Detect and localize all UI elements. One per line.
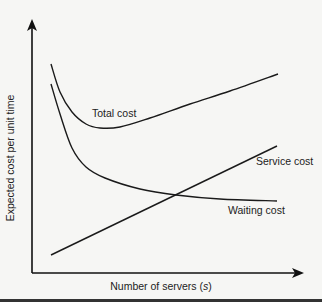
total-cost-label: Total cost (92, 107, 136, 119)
x-axis-label-prefix: Number of servers ( (110, 280, 203, 292)
y-axis-label: Expected cost per unit time (4, 95, 16, 222)
waiting-cost-curve (51, 84, 277, 201)
x-axis-label: Number of servers (s) (0, 280, 322, 292)
waiting-cost-label: Waiting cost (228, 204, 285, 216)
x-axis-label-suffix: ) (208, 280, 212, 292)
service-cost-label: Service cost (256, 155, 313, 167)
total-cost-curve (51, 64, 278, 128)
cost-chart (0, 0, 322, 302)
